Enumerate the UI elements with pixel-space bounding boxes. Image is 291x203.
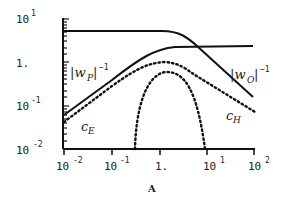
svg-text:1: 1	[31, 9, 36, 18]
svg-text:10: 10	[16, 144, 29, 157]
figure-caption: A	[147, 183, 156, 194]
svg-text:-2: -2	[33, 140, 43, 149]
y-tick-labels: 10 1 1. 10 -1 10 -2	[16, 9, 43, 157]
svg-text:|: |	[254, 67, 258, 82]
svg-text:-2: -2	[73, 156, 83, 165]
svg-text:|w: |w	[230, 67, 246, 82]
label-wp: |w P | −1	[70, 63, 109, 83]
svg-text:−1: −1	[260, 65, 270, 74]
svg-text:H: H	[232, 115, 241, 125]
svg-text:-1: -1	[31, 96, 41, 105]
svg-text:|: |	[93, 65, 97, 80]
curve-ch	[135, 72, 205, 149]
svg-text:10: 10	[16, 13, 29, 26]
curve-labels: |w P | −1 |w O | −1 c E c H	[70, 63, 270, 136]
svg-text:E: E	[87, 126, 95, 136]
svg-text:2: 2	[265, 156, 270, 165]
chart: 10 1 1. 10 -1 10 -2 10 -2 10 -1 1. 10 1 …	[0, 0, 291, 203]
label-ce: c E	[81, 119, 95, 136]
svg-text:−1: −1	[99, 63, 109, 72]
x-tick-labels: 10 -2 10 -1 1. 10 1 10 2	[56, 156, 270, 173]
svg-text:10: 10	[56, 160, 69, 173]
curve-wo	[64, 31, 253, 97]
svg-text:|w: |w	[70, 65, 86, 80]
svg-text:1: 1	[220, 156, 225, 165]
svg-text:10: 10	[16, 100, 29, 113]
svg-text:10: 10	[104, 160, 117, 173]
svg-text:1.: 1.	[16, 57, 29, 70]
svg-text:-1: -1	[120, 156, 130, 165]
svg-text:10: 10	[248, 160, 261, 173]
svg-text:1.: 1.	[155, 160, 168, 173]
svg-text:10: 10	[203, 160, 216, 173]
label-ch: c H	[226, 108, 241, 125]
